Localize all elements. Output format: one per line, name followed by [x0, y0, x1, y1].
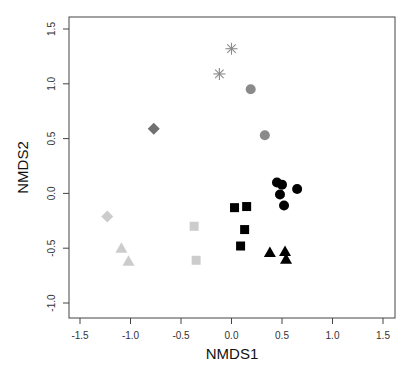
circle-marker	[260, 130, 270, 140]
circle-marker	[277, 180, 287, 190]
x-tick-label: 0.0	[225, 330, 239, 341]
triangle-marker	[122, 255, 134, 265]
x-axis: -1.5-1.0-0.50.00.51.01.5	[71, 318, 390, 341]
y-tick-label: 1.5	[46, 22, 57, 36]
triangle-marker	[115, 242, 127, 253]
asterisk-marker	[213, 68, 225, 80]
y-tick-label: -1.0	[46, 294, 57, 312]
nmds-scatter-plot: -1.5-1.0-0.50.00.51.01.5 -1.0-0.50.00.51…	[0, 0, 412, 379]
square-marker	[240, 225, 249, 234]
y-axis: -1.0-0.50.00.51.01.5	[46, 22, 69, 312]
y-tick-label: 0.5	[46, 131, 57, 145]
triangle-marker	[264, 247, 276, 258]
square-marker	[236, 242, 245, 251]
x-tick-label: -0.5	[172, 330, 190, 341]
data-points	[101, 43, 302, 266]
y-tick-label: 0.0	[46, 186, 57, 200]
y-axis-title: NMDS2	[14, 141, 31, 194]
y-tick-label: 1.0	[46, 76, 57, 90]
plot-frame	[69, 17, 395, 318]
square-marker	[190, 222, 199, 231]
diamond-marker	[148, 123, 160, 135]
x-tick-label: -1.0	[122, 330, 140, 341]
diamond-marker	[101, 210, 113, 222]
asterisk-marker	[226, 43, 238, 55]
circle-marker	[279, 200, 289, 210]
square-marker	[242, 202, 251, 211]
x-tick-label: 0.5	[275, 330, 289, 341]
square-marker	[192, 256, 201, 265]
circle-marker	[246, 84, 256, 94]
y-tick-label: -0.5	[46, 239, 57, 257]
circle-marker	[275, 189, 285, 199]
circle-marker	[292, 184, 302, 194]
x-tick-label: 1.5	[376, 330, 390, 341]
x-axis-title: NMDS1	[206, 345, 259, 362]
triangle-marker	[279, 245, 291, 256]
square-marker	[230, 203, 239, 212]
x-tick-label: -1.5	[71, 330, 89, 341]
x-tick-label: 1.0	[326, 330, 340, 341]
